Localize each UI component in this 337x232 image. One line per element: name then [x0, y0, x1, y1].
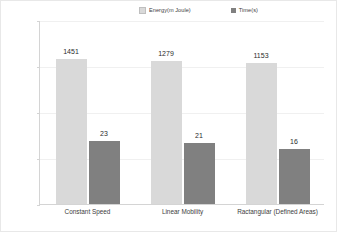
bar-column: 1153	[246, 21, 277, 204]
plot-area: 100001000100101145123Constant Speed12792…	[39, 21, 324, 205]
legend-swatch-energy-icon	[139, 7, 146, 14]
legend-entry-energy: Energy(m Joule)	[139, 7, 191, 14]
x-axis-category-label: Ractangular (Defined Areas)	[237, 209, 318, 215]
bar-time[interactable]	[89, 141, 120, 204]
legend-label-time: Time(s)	[239, 8, 258, 14]
chart-frame: Energy(m Joule) Time(s) 1000010001001011…	[0, 0, 337, 232]
chart-legend: Energy(m Joule) Time(s)	[139, 4, 324, 17]
bar-group: 145123	[40, 21, 135, 204]
bar-column: 16	[279, 21, 310, 204]
legend-entry-time: Time(s)	[231, 8, 258, 14]
bar-column: 1279	[151, 21, 182, 204]
bar-value-label: 16	[290, 138, 298, 145]
x-axis-category-label: Constant Speed	[65, 209, 111, 215]
bar-value-label: 23	[100, 130, 108, 137]
bar-column: 23	[89, 21, 120, 204]
bar-energy[interactable]	[56, 59, 87, 204]
y-axis-tick	[37, 205, 40, 206]
bar-energy[interactable]	[151, 61, 182, 204]
bar-column: 1451	[56, 21, 87, 204]
bar-column: 21	[184, 21, 215, 204]
bar-energy[interactable]	[246, 63, 277, 204]
bar-value-label: 1279	[158, 50, 174, 57]
bar-value-label: 1153	[253, 52, 268, 59]
bar-group: 115316	[230, 21, 325, 204]
legend-label-energy: Energy(m Joule)	[149, 8, 191, 14]
bar-group: 127921	[135, 21, 230, 204]
bar-time[interactable]	[184, 143, 215, 204]
bar-value-label: 1451	[63, 48, 79, 55]
x-axis-category-label: Linear Mobility	[162, 209, 203, 215]
bar-value-label: 21	[195, 132, 203, 139]
legend-swatch-time-icon	[231, 8, 236, 13]
bar-time[interactable]	[279, 149, 310, 204]
